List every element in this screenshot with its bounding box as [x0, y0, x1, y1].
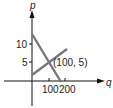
equilibrium-label: (100, 5): [53, 57, 87, 68]
x-axis-label: q: [106, 77, 112, 88]
x-tick-label-200: 200: [59, 84, 76, 95]
supply-demand-diagram: p q 10 5 100 200 (100, 5): [0, 0, 113, 108]
x-tick-label-100: 100: [42, 84, 59, 95]
x-axis-arrow-icon: [97, 79, 105, 84]
y-axis-arrow-icon: [30, 10, 35, 18]
y-axis-label: p: [29, 0, 36, 11]
y-tick-label-10: 10: [16, 39, 28, 50]
y-tick-label-5: 5: [22, 57, 28, 68]
